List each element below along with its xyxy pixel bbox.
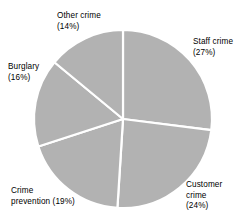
pie-label-crime-prevention: Crime prevention (19%) [11, 186, 75, 207]
pie-label-burglary: Burglary (16%) [8, 62, 39, 83]
pie-label-staff-crime: Staff crime (27%) [193, 37, 233, 58]
pie-chart-figure: Other crime (14%) Staff crime (27%) Burg… [0, 0, 249, 220]
pie-label-customer-crime: Customer crime (24%) [186, 180, 222, 212]
pie-label-other-crime: Other crime (14%) [57, 11, 101, 32]
